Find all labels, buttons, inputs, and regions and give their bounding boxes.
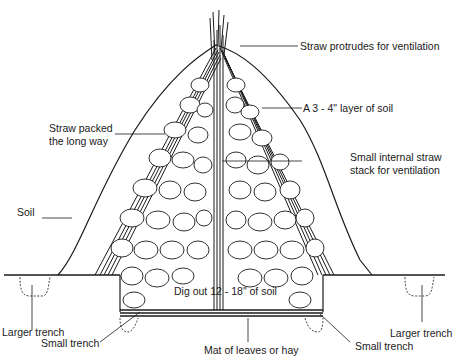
label-internal-stack-1: Small internal straw — [350, 151, 442, 163]
clamp-illustration — [0, 0, 453, 361]
soil-mound-outline — [58, 45, 372, 275]
label-soil: Soil — [17, 206, 35, 218]
label-dig-out: Dig out 12 - 18" of soil — [174, 285, 277, 297]
label-soil-layer: A 3 - 4" layer of soil — [303, 102, 393, 114]
label-straw-packed-1: Straw packed — [49, 122, 113, 134]
label-small-trench-right: Small trench — [355, 340, 413, 352]
label-mat: Mat of leaves or hay — [204, 344, 299, 356]
label-larger-trench-right: Larger trench — [390, 327, 452, 339]
mat-of-leaves — [120, 310, 323, 316]
label-straw-packed-2: the long way — [49, 135, 108, 147]
label-internal-stack-2: stack for ventilation — [350, 164, 440, 176]
label-small-trench-left: Small trench — [41, 337, 99, 349]
label-straw-protrudes: Straw protrudes for ventilation — [300, 40, 439, 52]
leader-lines — [32, 46, 422, 342]
